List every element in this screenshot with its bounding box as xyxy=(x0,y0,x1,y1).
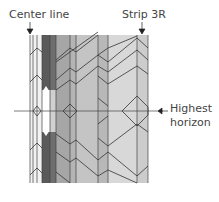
strip-diagram xyxy=(0,0,219,202)
strip-fills xyxy=(30,35,148,183)
